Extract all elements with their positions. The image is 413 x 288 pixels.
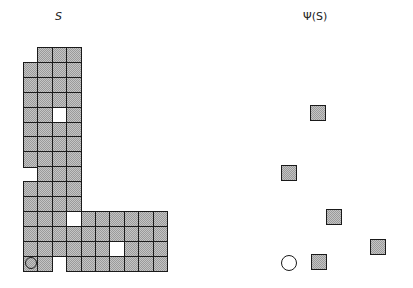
origin-circle-marker	[281, 255, 297, 271]
psi-square	[311, 254, 327, 270]
psi-square	[281, 165, 297, 181]
psi-square	[310, 105, 326, 121]
psi-s-figure	[0, 0, 413, 288]
psi-square	[370, 239, 386, 255]
psi-square	[326, 209, 342, 225]
